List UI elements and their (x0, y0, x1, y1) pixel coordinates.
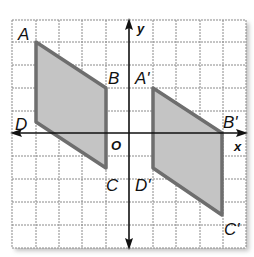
origin-label: O (111, 138, 121, 153)
vertex-label-a-prime: A' (134, 69, 150, 88)
vertex-label-d: D (15, 115, 27, 134)
vertex-label-b-prime: B' (223, 113, 238, 132)
vertex-label-b: B (108, 69, 119, 88)
x-axis-label: x (233, 139, 242, 154)
y-axis-label: y (136, 21, 145, 36)
vertex-label-a: A (17, 25, 29, 44)
vertex-label-c-prime: C' (224, 220, 240, 239)
vertex-label-d-prime: D' (135, 176, 151, 195)
coordinate-diagram: y x O A B C D A' B' C' D' (0, 0, 254, 257)
vertex-label-c: C (106, 176, 119, 195)
